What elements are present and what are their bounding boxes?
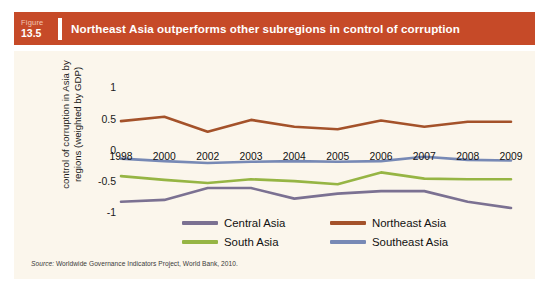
x-tick-label: 2007 <box>413 151 436 162</box>
y-tick-label: -0.5 <box>98 175 116 187</box>
y-tick-label: 1 <box>110 81 116 93</box>
legend-swatch-icon <box>182 240 218 244</box>
figure-number: 13.5 <box>21 27 58 39</box>
figure-word-label: Figure <box>21 18 58 27</box>
chart-legend: Central AsiaNortheast AsiaSouth AsiaSout… <box>182 217 522 255</box>
figure-panel: Figure 13.5 Northeast Asia outperforms o… <box>0 0 549 292</box>
x-tick-label: 2008 <box>456 151 479 162</box>
y-tick-label: 0.5 <box>101 113 116 125</box>
series-line <box>121 172 511 184</box>
legend-label: Southeast Asia <box>372 236 448 248</box>
x-tick-label: 2003 <box>240 151 263 162</box>
legend-item[interactable]: Northeast Asia <box>330 217 446 229</box>
x-tick-label: 1998 <box>110 151 133 162</box>
legend-label: Central Asia <box>224 217 285 229</box>
x-tick-label: 2000 <box>153 151 176 162</box>
banner-divider <box>58 18 62 40</box>
x-tick-label: 2009 <box>500 151 523 162</box>
x-tick-label: 2002 <box>196 151 219 162</box>
x-axis-tick-labels: 1998200020022003200420052006200720082009 <box>121 151 511 167</box>
source-prefix: Source: <box>31 260 54 267</box>
x-tick-label: 2004 <box>283 151 306 162</box>
legend-item[interactable]: Southeast Asia <box>330 236 448 248</box>
legend-swatch-icon <box>330 221 366 225</box>
legend-swatch-icon <box>330 240 366 244</box>
y-tick-label: -1 <box>107 206 116 218</box>
series-line <box>121 117 511 132</box>
legend-item[interactable]: South Asia <box>182 236 330 248</box>
series-line <box>121 188 511 208</box>
legend-row: South AsiaSoutheast Asia <box>182 236 522 248</box>
figure-number-block: Figure 13.5 <box>14 12 58 45</box>
x-tick-label: 2006 <box>370 151 393 162</box>
legend-item[interactable]: Central Asia <box>182 217 330 229</box>
chart-card: control of corruption in Asia by regions… <box>14 51 535 279</box>
legend-label: South Asia <box>224 236 278 248</box>
source-text: Worldwide Governance Indicators Project,… <box>54 260 238 267</box>
figure-banner: Figure 13.5 Northeast Asia outperforms o… <box>14 12 535 45</box>
figure-title: Northeast Asia outperforms other subregi… <box>71 22 460 35</box>
legend-swatch-icon <box>182 221 218 225</box>
legend-row: Central AsiaNortheast Asia <box>182 217 522 229</box>
legend-label: Northeast Asia <box>372 217 446 229</box>
x-tick-label: 2005 <box>326 151 349 162</box>
source-note: Source: Worldwide Governance Indicators … <box>31 260 238 267</box>
